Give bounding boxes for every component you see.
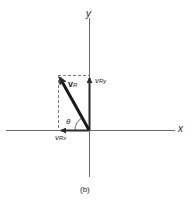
x-axis-label: x — [178, 124, 183, 134]
vrx-label: vRx — [55, 134, 66, 142]
theta-label: θ — [66, 118, 70, 126]
vry-label: vRy — [95, 77, 106, 85]
theta-arc — [75, 118, 82, 130]
diagram-canvas — [0, 0, 194, 206]
vrx-label-sub: Rx — [59, 135, 66, 141]
y-axis-label: y — [86, 9, 91, 19]
vr-label-sub: R — [73, 82, 77, 88]
vector-diagram: y x vR vRy vRx θ (b) — [0, 0, 194, 206]
vry-label-sub: Ry — [99, 78, 106, 84]
vr-label: vR — [68, 80, 77, 89]
figure-caption: (b) — [80, 186, 90, 194]
